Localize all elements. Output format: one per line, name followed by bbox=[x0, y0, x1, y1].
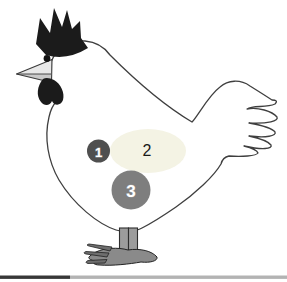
bottom-bar-right bbox=[70, 276, 287, 279]
region-2-label: 2 bbox=[143, 142, 152, 159]
legs-shape bbox=[84, 228, 157, 265]
region-1-label: 1 bbox=[95, 145, 102, 160]
bottom-bar-left bbox=[0, 276, 70, 279]
chicken-diagram: 1 2 3 bbox=[0, 0, 287, 282]
eye-dot bbox=[44, 55, 51, 62]
chicken-diagram-svg: 1 2 3 bbox=[0, 0, 287, 282]
region-3-label: 3 bbox=[126, 182, 135, 201]
comb-shape bbox=[36, 8, 88, 57]
